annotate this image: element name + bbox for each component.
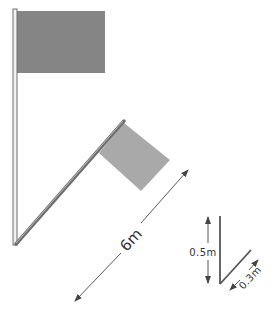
flagpole-diagram: 6m 0.5m 0.3m <box>0 0 275 317</box>
upright-flag-group <box>13 9 105 245</box>
tilted-pole <box>16 121 124 244</box>
inset-length-label: 0.3m <box>237 264 264 292</box>
inset-object: 0.5m 0.3m <box>189 216 263 291</box>
tilted-flag <box>99 123 170 191</box>
dimension-arrow-lower <box>75 253 121 301</box>
pole-length-label: 6m <box>116 225 146 255</box>
inset-height-label: 0.5m <box>189 247 217 258</box>
tilted-pole-highlight <box>16 121 123 243</box>
upright-pole <box>13 9 17 245</box>
upright-flag <box>17 11 105 73</box>
pole-length-dimension: 6m <box>75 170 188 301</box>
tilted-flag-group <box>16 121 170 244</box>
